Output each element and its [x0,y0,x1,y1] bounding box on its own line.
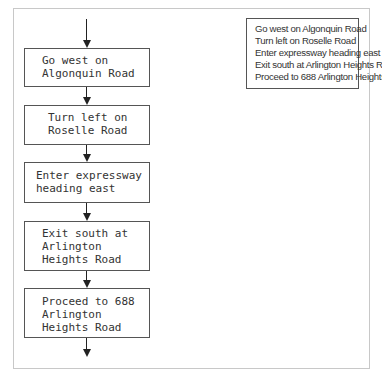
summary-box: Go west on Algonquin Road Turn left on R… [246,18,359,89]
arrow-start [86,19,87,41]
step-line: Arlington [42,240,149,253]
summary-line: Enter expressway heading east [255,47,358,59]
flow-step-5: Proceed to 688 Arlington Heights Road [24,288,150,338]
arrow-head-icon [83,213,91,221]
flow-step-2: Turn left on Roselle Road [24,105,150,145]
flow-step-4: Exit south at Arlington Heights Road [24,221,150,271]
step-line: Heights Road [42,253,149,266]
arrow-head-icon [83,349,91,357]
step-line: Exit south at [42,227,149,240]
summary-line: Go west on Algonquin Road [255,23,358,35]
summary-line: Turn left on Roselle Road [255,35,358,47]
arrow-head-icon [83,97,91,105]
step-line: Go west on [42,54,149,67]
step-line: Roselle Road [48,124,149,137]
flow-step-3: Enter expressway heading east [24,162,150,203]
arrow-head-icon [83,280,91,288]
step-line: Heights Road [42,321,149,334]
summary-line: Exit south at Arlington Heights Road [255,59,358,71]
step-line: Proceed to 688 [42,295,149,308]
arrow-head-icon [83,40,91,48]
step-line: Arlington [42,308,149,321]
step-line: Turn left on [48,111,149,124]
step-line: Algonquin Road [42,67,149,80]
step-line: Enter expressway [36,169,149,182]
step-line: heading east [36,182,149,195]
flow-step-1: Go west on Algonquin Road [24,48,150,87]
summary-line: Proceed to 688 Arlington Heights Road [255,71,358,83]
arrow-head-icon [83,154,91,162]
